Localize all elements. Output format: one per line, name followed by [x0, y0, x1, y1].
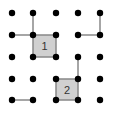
grid-dot[interactable]: [9, 76, 15, 82]
grid-dot[interactable]: [30, 76, 36, 82]
grid-dot[interactable]: [75, 54, 81, 60]
grid-dot[interactable]: [9, 32, 15, 38]
grid-dot[interactable]: [97, 10, 103, 16]
grid-dot[interactable]: [97, 97, 103, 103]
grid-dot[interactable]: [53, 54, 59, 60]
grid-dot[interactable]: [30, 32, 36, 38]
grid-dot[interactable]: [75, 76, 81, 82]
grid-dot[interactable]: [53, 97, 59, 103]
grid-dot[interactable]: [97, 54, 103, 60]
box-owner-label: 1: [41, 40, 47, 52]
grid-dot[interactable]: [75, 32, 81, 38]
grid-dot[interactable]: [53, 10, 59, 16]
grid-dot[interactable]: [97, 32, 103, 38]
grid-dot[interactable]: [75, 10, 81, 16]
grid-dot[interactable]: [30, 54, 36, 60]
grid-dot[interactable]: [53, 32, 59, 38]
game-board[interactable]: 12: [0, 0, 119, 125]
grid-dot[interactable]: [9, 10, 15, 16]
grid-dot[interactable]: [97, 76, 103, 82]
grid-dot[interactable]: [75, 97, 81, 103]
grid-dot[interactable]: [9, 54, 15, 60]
grid-dot[interactable]: [30, 97, 36, 103]
grid-dot[interactable]: [9, 97, 15, 103]
box-owner-label: 2: [64, 84, 70, 96]
grid-dot[interactable]: [53, 76, 59, 82]
grid-dot[interactable]: [30, 10, 36, 16]
